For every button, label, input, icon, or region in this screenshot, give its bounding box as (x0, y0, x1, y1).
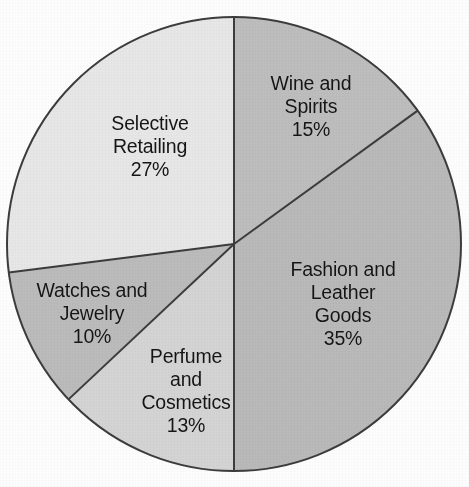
pie-chart-svg (0, 0, 469, 487)
pie-chart-figure: Wine and Spirits 15% Fashion and Leather… (0, 0, 469, 487)
pie-slice-selective-retailing[interactable] (7, 17, 234, 272)
